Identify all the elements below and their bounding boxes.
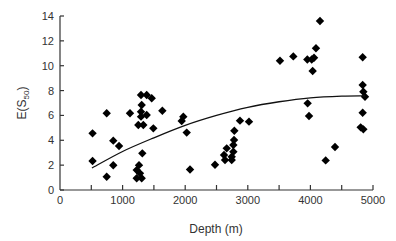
- data-point-diamond: [358, 108, 366, 116]
- data-point-diamond: [308, 67, 316, 75]
- data-point-diamond: [276, 57, 284, 65]
- data-point-diamond: [139, 121, 147, 129]
- data-point-diamond: [109, 161, 117, 169]
- data-point-diamond: [109, 136, 117, 144]
- y-axis-title: E(S50): [15, 87, 31, 120]
- data-point-diamond: [137, 101, 145, 109]
- x-tick-label: 2000: [173, 194, 197, 206]
- y-tick-label: 10: [42, 60, 54, 72]
- x-tick-label: 0: [57, 194, 63, 206]
- data-point-diamond: [358, 53, 366, 61]
- y-tick-label: 12: [42, 35, 54, 47]
- data-point-diamond: [305, 112, 313, 120]
- y-tick-label: 0: [48, 184, 54, 196]
- data-point-diamond: [331, 143, 339, 151]
- data-point-diamond: [138, 149, 146, 157]
- y-tick-label: 2: [48, 159, 54, 171]
- y-tick-label: 14: [42, 10, 54, 22]
- y-tick-label: 6: [48, 109, 54, 121]
- data-point-diamond: [158, 107, 166, 115]
- data-point-diamond: [149, 124, 157, 132]
- data-markers: [88, 17, 369, 183]
- data-point-diamond: [358, 81, 366, 89]
- data-point-diamond: [183, 128, 191, 136]
- data-point-diamond: [88, 129, 96, 137]
- x-tick-label: 1000: [110, 194, 134, 206]
- scatter-chart: 02468101214 010002000300040005000 Depth …: [0, 0, 396, 241]
- data-point-diamond: [211, 161, 219, 169]
- data-point-diamond: [115, 142, 123, 150]
- data-point-diamond: [102, 109, 110, 117]
- data-point-diamond: [245, 117, 253, 125]
- data-point-diamond: [321, 156, 329, 164]
- data-point-diamond: [316, 17, 324, 25]
- data-point-diamond: [236, 116, 244, 124]
- y-axis-title-main: E(S: [15, 99, 29, 119]
- y-axis: 02468101214: [42, 10, 64, 196]
- data-point-diamond: [312, 44, 320, 52]
- data-point-diamond: [186, 165, 194, 173]
- data-point-diamond: [303, 99, 311, 107]
- data-point-diamond: [289, 52, 297, 60]
- data-point-diamond: [88, 157, 96, 165]
- data-point-diamond: [230, 127, 238, 135]
- y-axis-title-close: ): [15, 87, 29, 91]
- data-point-diamond: [102, 173, 110, 181]
- x-tick-label: 5000: [361, 194, 385, 206]
- x-axis-title: Depth (m): [189, 222, 242, 236]
- x-tick-label: 3000: [236, 194, 260, 206]
- data-point-diamond: [126, 109, 134, 117]
- x-tick-label: 4000: [298, 194, 322, 206]
- y-tick-label: 8: [48, 85, 54, 97]
- x-axis: 010002000300040005000: [57, 185, 385, 206]
- y-tick-label: 4: [48, 134, 54, 146]
